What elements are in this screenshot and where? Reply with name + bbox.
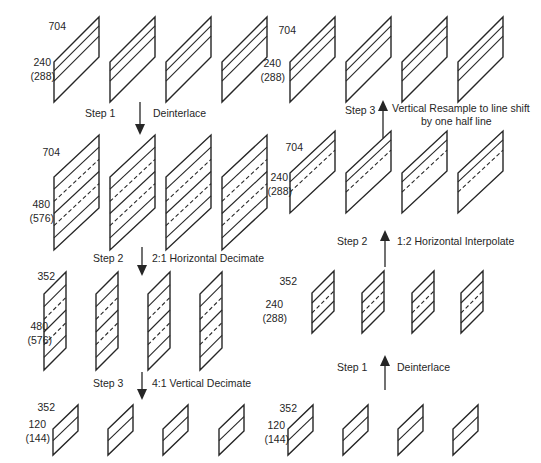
- step-annotation-left-3: Step 3 4:1 Vertical Decimate: [93, 372, 251, 400]
- scan-line: [166, 147, 211, 189]
- scan-line: [148, 310, 170, 332]
- step-caption-line1: Vertical Resample to line shift: [392, 102, 530, 114]
- scan-line: [96, 335, 118, 357]
- scan-line: [200, 335, 222, 357]
- interpolated-scan-line: [96, 297, 118, 319]
- frame-plane-outline: [402, 131, 447, 213]
- lines-label-alt: (576): [29, 212, 54, 224]
- scan-line: [402, 140, 447, 182]
- step-caption: 1:2 Horizontal Interpolate: [397, 235, 514, 247]
- frame-plane-outline: [290, 17, 335, 102]
- frame-stack-704x240-fields: [54, 17, 267, 102]
- interpolated-scan-line: [290, 150, 335, 192]
- lines-label: 240: [265, 298, 283, 310]
- down-arrowhead-icon: [137, 265, 147, 276]
- interpolated-scan-line: [44, 297, 66, 319]
- interpolated-scan-line: [110, 159, 155, 201]
- step-label: Step 3: [93, 377, 124, 389]
- frame-plane-outline: [108, 405, 133, 455]
- scan-line: [453, 417, 478, 441]
- scan-line: [346, 36, 391, 81]
- frame-stack-704x240-interpolated: [290, 131, 503, 213]
- scan-line: [148, 335, 170, 357]
- scan-line: [458, 140, 503, 182]
- scan-line: [312, 301, 334, 323]
- step-caption: Deinterlace: [153, 107, 206, 119]
- scan-line: [458, 36, 503, 81]
- width-label: 704: [278, 24, 296, 36]
- step-caption-line2: by one half line: [421, 115, 492, 127]
- frame-stack-704x240-resampled: [290, 17, 503, 102]
- lines-label-alt: (144): [264, 433, 289, 445]
- frame-plane-outline: [110, 17, 155, 102]
- scan-line: [108, 417, 133, 441]
- step-label: Step 2: [93, 252, 124, 264]
- frame-stack-704x480-frames: [54, 135, 267, 250]
- scan-line: [166, 36, 211, 81]
- lines-label-alt: (144): [25, 432, 50, 444]
- step-annotation-right-1: Step 1 Deinterlace: [337, 355, 450, 390]
- scan-line: [148, 285, 170, 307]
- interpolated-scan-line: [54, 159, 99, 201]
- scan-line: [110, 196, 155, 238]
- interpolated-scan-line: [148, 297, 170, 319]
- up-arrowhead-icon: [380, 230, 390, 241]
- step-label: Step 1: [337, 361, 368, 373]
- frame-plane-outline: [163, 405, 188, 455]
- frame-plane-outline: [343, 405, 368, 455]
- scan-line: [110, 172, 155, 214]
- step-label: Step 3: [345, 104, 376, 116]
- frame-stack-352x240-deinterlaced: [312, 271, 483, 333]
- interpolated-scan-line: [54, 184, 99, 226]
- lines-label: 480: [30, 320, 48, 332]
- scan-line: [461, 301, 483, 323]
- lines-label-alt: (288): [260, 71, 285, 83]
- scan-line: [288, 417, 313, 441]
- interpolated-scan-line: [166, 159, 211, 201]
- scan-line: [222, 147, 267, 189]
- down-arrowhead-icon: [135, 124, 145, 135]
- diagram-canvas: 704 240 (288) Step 1 Deinterlace 704 480…: [0, 0, 541, 463]
- frame-plane-outline: [166, 17, 211, 102]
- scan-line: [54, 36, 99, 81]
- step-label: Step 1: [85, 107, 116, 119]
- lines-label-alt: (288): [30, 70, 55, 82]
- interpolated-scan-line: [402, 150, 447, 192]
- frame-plane-outline: [346, 17, 391, 102]
- step-annotation-right-2: Step 2 1:2 Horizontal Interpolate: [337, 230, 514, 267]
- scan-line: [412, 301, 434, 323]
- step-caption: 2:1 Horizontal Decimate: [152, 252, 264, 264]
- frame-stack-352x120-frames: [53, 405, 244, 455]
- interpolated-scan-line: [461, 291, 483, 313]
- width-label: 704: [42, 146, 60, 158]
- frame-plane-outline: [458, 131, 503, 213]
- interpolated-scan-line: [110, 184, 155, 226]
- scan-line: [362, 281, 384, 303]
- frame-plane-outline: [458, 17, 503, 102]
- scan-line: [200, 310, 222, 332]
- width-label: 704: [48, 20, 66, 32]
- lines-label-alt: (288): [262, 312, 287, 324]
- scan-line: [163, 417, 188, 441]
- lines-label: 240: [263, 57, 281, 69]
- frame-plane-outline: [219, 405, 244, 455]
- scan-line: [166, 172, 211, 214]
- scan-line: [412, 281, 434, 303]
- down-arrowhead-icon: [137, 389, 147, 400]
- step-annotation-left-1: Step 1 Deinterlace: [85, 102, 206, 135]
- frame-plane-outline: [402, 17, 447, 102]
- interpolated-scan-line: [412, 291, 434, 313]
- format-conversion-diagram: 704 240 (288) Step 1 Deinterlace 704 480…: [0, 0, 541, 463]
- step-caption: 4:1 Vertical Decimate: [152, 377, 251, 389]
- scan-line: [398, 417, 423, 441]
- interpolated-scan-line: [200, 297, 222, 319]
- scan-line: [222, 196, 267, 238]
- interpolated-scan-line: [346, 150, 391, 192]
- scan-line: [461, 281, 483, 303]
- interpolated-scan-line: [222, 159, 267, 201]
- scan-line: [44, 285, 66, 307]
- up-arrowhead-icon: [378, 100, 388, 111]
- interpolated-scan-line: [222, 184, 267, 226]
- interpolated-scan-line: [148, 323, 170, 345]
- lines-label: 480: [32, 198, 50, 210]
